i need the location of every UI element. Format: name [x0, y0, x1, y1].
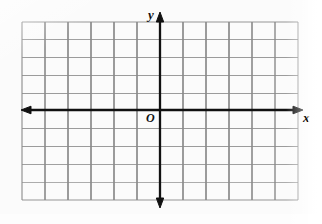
coordinate-plane-figure: y x O	[0, 0, 322, 224]
y-axis-label: y	[148, 8, 154, 21]
paper-fade-topleft	[0, 0, 120, 70]
coordinate-grid-svg	[0, 0, 322, 224]
x-axis-label: x	[303, 111, 310, 124]
origin-label: O	[146, 112, 155, 124]
